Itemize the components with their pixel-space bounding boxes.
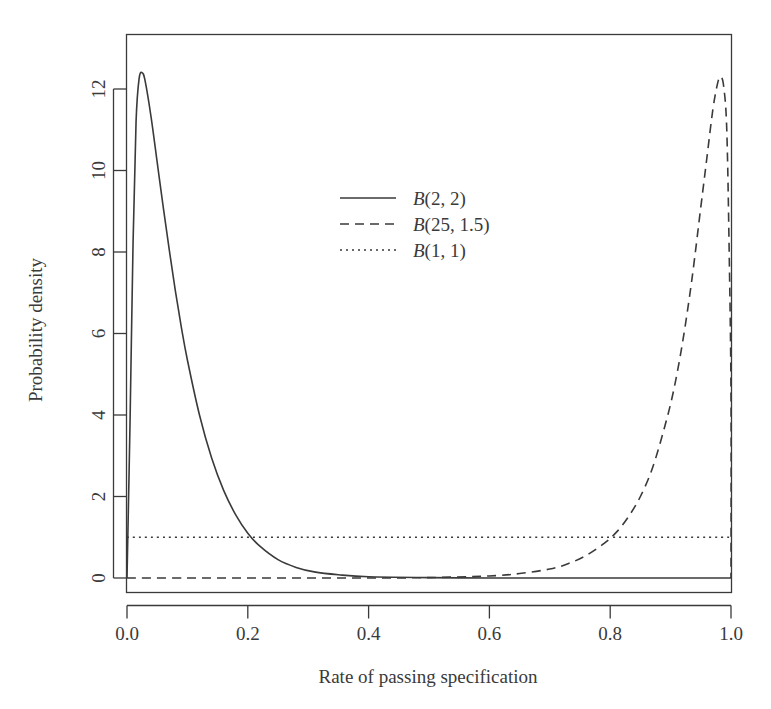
plot-frame — [127, 35, 732, 593]
legend-symbol-2: B — [413, 240, 425, 261]
legend-args-0: (2, 2) — [425, 188, 466, 210]
x-axis-title: Rate of passing specification — [319, 666, 538, 687]
x-tick-label-5: 1.0 — [719, 623, 743, 644]
series-line-b22 — [127, 72, 731, 578]
beta-density-plot: 0 2 4 6 8 10 12 0.0 0.2 0.4 0.6 0.8 1 — [0, 0, 771, 709]
y-tick-label-2: 2 — [88, 492, 109, 502]
x-tick-label-2: 0.4 — [357, 623, 381, 644]
y-tick-label-6: 6 — [88, 329, 109, 339]
y-tick-label-0: 0 — [88, 573, 109, 583]
y-tick-label-4: 4 — [88, 410, 109, 420]
y-tick-label-12: 12 — [88, 80, 109, 99]
x-axis: 0.0 0.2 0.4 0.6 0.8 1.0 — [115, 606, 743, 645]
series-line-b25-15 — [127, 77, 731, 578]
legend-entry-b22: B(2, 2) — [413, 188, 466, 210]
legend-symbol-1: B — [413, 214, 425, 235]
y-tick-label-8: 8 — [88, 247, 109, 257]
legend-symbol-0: B — [413, 188, 425, 209]
legend-args-2: (1, 1) — [425, 240, 466, 262]
x-tick-label-4: 0.8 — [598, 623, 622, 644]
x-tick-label-0: 0.0 — [115, 623, 139, 644]
y-tick-label-10: 10 — [88, 161, 109, 180]
y-axis-title: Probability density — [25, 257, 46, 402]
series-group — [127, 72, 731, 578]
chart-figure: 0 2 4 6 8 10 12 0.0 0.2 0.4 0.6 0.8 1 — [0, 0, 771, 709]
legend: B(2, 2) B(25, 1.5) B(1, 1) — [340, 188, 490, 262]
y-tick-marks — [114, 89, 127, 578]
x-tick-marks — [127, 606, 731, 619]
legend-args-1: (25, 1.5) — [425, 214, 490, 236]
x-tick-label-3: 0.6 — [478, 623, 502, 644]
y-axis: 0 2 4 6 8 10 12 — [88, 80, 127, 583]
legend-entry-b25-15: B(25, 1.5) — [413, 214, 490, 236]
legend-entry-b11: B(1, 1) — [413, 240, 466, 262]
x-tick-label-1: 0.2 — [236, 623, 260, 644]
